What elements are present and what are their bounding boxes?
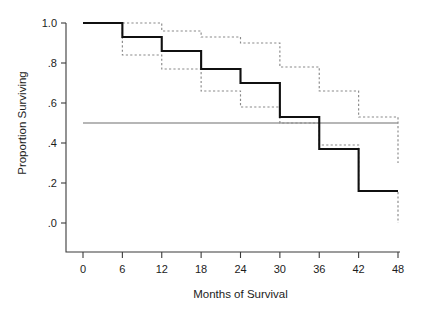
survival-curve-line <box>83 23 398 191</box>
x-axis-title: Months of Survival <box>193 288 288 300</box>
y-tick-label: 1.0 <box>42 17 57 29</box>
x-tick-label: 6 <box>119 263 125 275</box>
x-tick-label: 48 <box>392 263 404 275</box>
x-tick-label: 0 <box>80 263 86 275</box>
axis-lines <box>66 23 400 252</box>
survival-chart-figure: 0612182430364248 .0.2.4.6.81.0 Months of… <box>0 0 426 309</box>
y-tick-label: .0 <box>48 217 57 229</box>
x-axis-tick-marks <box>83 252 398 258</box>
y-tick-label: .4 <box>48 137 57 149</box>
survival-plot-svg: 0612182430364248 .0.2.4.6.81.0 Months of… <box>0 0 426 309</box>
y-tick-label: .6 <box>48 97 57 109</box>
y-tick-label: .8 <box>48 57 57 69</box>
y-axis-tick-marks <box>61 23 66 223</box>
x-tick-label: 36 <box>313 263 325 275</box>
plot-axes <box>61 23 400 258</box>
y-tick-label: .2 <box>48 177 57 189</box>
x-tick-label: 24 <box>234 263 246 275</box>
x-axis-tick-labels: 0612182430364248 <box>80 263 404 275</box>
x-tick-label: 18 <box>195 263 207 275</box>
x-tick-label: 12 <box>156 263 168 275</box>
y-axis-tick-labels: .0.2.4.6.81.0 <box>42 17 57 229</box>
x-tick-label: 30 <box>274 263 286 275</box>
x-tick-label: 42 <box>353 263 365 275</box>
confidence-limit-line <box>83 23 398 163</box>
survival-curve <box>83 23 398 191</box>
y-axis-title: Proportion Surviving <box>16 71 28 175</box>
